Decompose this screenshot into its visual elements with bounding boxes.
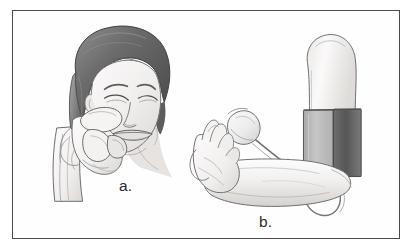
panel-b-upper-arm [307, 35, 356, 113]
index-finger [81, 107, 122, 132]
cuff-dark-panel [333, 109, 361, 176]
panel-label-a: a. [119, 177, 132, 195]
upper-arm-shape [307, 35, 356, 113]
panel-label-b: b. [259, 213, 272, 231]
panel-a-illustration [53, 26, 172, 201]
panel-b-illustration [190, 35, 361, 216]
figure-root: a. b. [0, 0, 414, 250]
illustration-canvas [13, 11, 399, 238]
figure-frame: a. b. [12, 10, 400, 239]
